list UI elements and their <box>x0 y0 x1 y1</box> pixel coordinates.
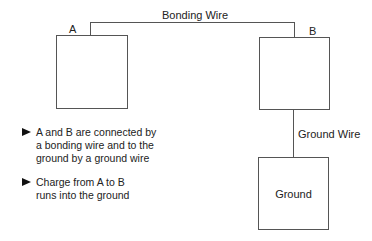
bullet-text: Charge from A to B runs into the ground <box>36 176 131 202</box>
bullet-arrow-icon <box>22 128 31 136</box>
bullet-text: A and B are connected by a bonding wire … <box>36 126 161 165</box>
bullet-arrow-icon <box>22 178 31 186</box>
bullet-list: A and B are connected by a bonding wire … <box>22 126 172 213</box>
bullet-item: Charge from A to B runs into the ground <box>22 176 172 202</box>
box-a <box>56 35 128 109</box>
ground-wire <box>293 110 294 157</box>
bonding-wire-label: Bonding Wire <box>162 9 228 21</box>
bonding-wire-horizontal <box>90 22 295 23</box>
ground-wire-label: Ground Wire <box>298 128 360 140</box>
bonding-wire-vertical-a <box>90 22 91 35</box>
ground-box: Ground <box>258 157 329 230</box>
bullet-item: A and B are connected by a bonding wire … <box>22 126 172 165</box>
label-b: B <box>309 25 316 37</box>
ground-label: Ground <box>259 188 328 200</box>
bonding-wire-vertical-b <box>294 22 295 37</box>
label-a: A <box>69 23 76 35</box>
box-b <box>259 37 330 110</box>
